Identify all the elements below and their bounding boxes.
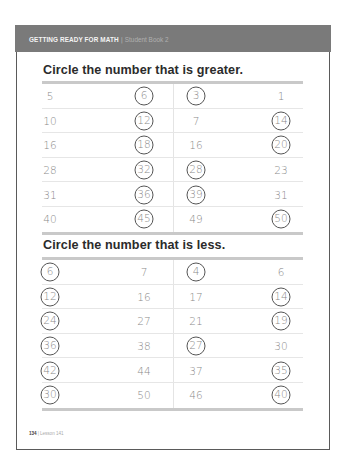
number[interactable]: 16	[40, 136, 60, 154]
circled-number[interactable]: 14	[272, 111, 291, 130]
circled-number[interactable]: 36	[135, 185, 154, 204]
footer-separator: |	[38, 431, 39, 436]
table-row: 36382730	[42, 334, 303, 359]
section-bottom-rule	[42, 232, 303, 235]
table-row: 40454950	[42, 207, 303, 232]
less-exercise-table: 6746121617142427211936382730424437353050…	[42, 260, 303, 408]
circled-number[interactable]: 36	[41, 337, 60, 356]
circled-number[interactable]: 20	[272, 136, 291, 155]
book-title: Student Book 2	[125, 36, 169, 43]
circled-number[interactable]: 14	[272, 287, 291, 306]
circled-number[interactable]: 19	[272, 312, 291, 331]
page-number: 134	[29, 431, 37, 436]
number[interactable]: 16	[134, 288, 154, 306]
table-row: 5631	[42, 84, 303, 109]
section-bottom-rule	[42, 408, 303, 411]
number[interactable]: 31	[271, 186, 291, 204]
number[interactable]: 6	[271, 263, 291, 281]
circled-number[interactable]: 24	[41, 312, 60, 331]
table-row: 24272119	[42, 309, 303, 334]
number[interactable]: 17	[186, 288, 206, 306]
table-row: 28322823	[42, 158, 303, 183]
number[interactable]: 49	[186, 210, 206, 228]
number[interactable]: 44	[134, 362, 154, 380]
series-title: GETTING READY FOR MATH	[29, 36, 119, 43]
circled-number[interactable]: 4	[187, 263, 206, 282]
circled-number[interactable]: 30	[41, 386, 60, 405]
page-footer: 134|Lesson 141	[29, 431, 64, 436]
number[interactable]: 5	[40, 87, 60, 105]
table-row: 30504640	[42, 383, 303, 408]
number[interactable]: 21	[186, 312, 206, 330]
number[interactable]: 7	[186, 112, 206, 130]
number[interactable]: 31	[40, 186, 60, 204]
number[interactable]: 46	[186, 386, 206, 404]
circled-number[interactable]: 18	[135, 136, 154, 155]
circled-number[interactable]: 6	[135, 87, 154, 106]
section-title-greater: Circle the number that is greater.	[43, 63, 243, 77]
table-row: 1012714	[42, 109, 303, 134]
number[interactable]: 28	[40, 161, 60, 179]
circled-number[interactable]: 6	[41, 263, 60, 282]
running-header: GETTING READY FOR MATH|Student Book 2	[29, 36, 169, 44]
table-row: 6746	[42, 260, 303, 285]
circled-number[interactable]: 32	[135, 161, 154, 180]
section-title-less: Circle the number that is less.	[43, 238, 225, 252]
table-row: 12161714	[42, 285, 303, 310]
table-row: 16181620	[42, 133, 303, 158]
circled-number[interactable]: 45	[135, 210, 154, 229]
lesson-label: Lesson 141	[40, 431, 64, 436]
number[interactable]: 37	[186, 362, 206, 380]
number[interactable]: 38	[134, 337, 154, 355]
circled-number[interactable]: 42	[41, 361, 60, 380]
table-row: 31363931	[42, 182, 303, 207]
circled-number[interactable]: 40	[272, 386, 291, 405]
circled-number[interactable]: 28	[187, 161, 206, 180]
circled-number[interactable]: 12	[41, 287, 60, 306]
number[interactable]: 23	[271, 161, 291, 179]
number[interactable]: 40	[40, 210, 60, 228]
number[interactable]: 16	[186, 136, 206, 154]
circled-number[interactable]: 50	[272, 210, 291, 229]
circled-number[interactable]: 3	[187, 87, 206, 106]
number[interactable]: 30	[271, 337, 291, 355]
circled-number[interactable]: 35	[272, 361, 291, 380]
table-row: 42443735	[42, 358, 303, 383]
header-separator: |	[121, 36, 123, 44]
circled-number[interactable]: 27	[187, 337, 206, 356]
greater-exercise-table: 5631101271416181620283228233136393140454…	[42, 84, 303, 232]
number[interactable]: 10	[40, 112, 60, 130]
circled-number[interactable]: 39	[187, 185, 206, 204]
number[interactable]: 27	[134, 312, 154, 330]
number[interactable]: 7	[134, 263, 154, 281]
number[interactable]: 1	[271, 87, 291, 105]
number[interactable]: 50	[134, 386, 154, 404]
circled-number[interactable]: 12	[135, 111, 154, 130]
